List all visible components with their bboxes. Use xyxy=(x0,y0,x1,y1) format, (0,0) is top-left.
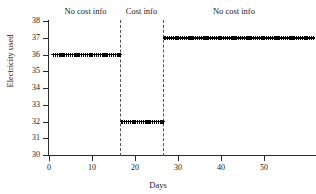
data-point-marker xyxy=(292,36,296,40)
x-axis-title: Days xyxy=(0,180,316,190)
data-point-marker xyxy=(303,36,307,40)
data-point-marker xyxy=(155,120,159,124)
data-point-marker xyxy=(238,36,242,40)
data-point-marker xyxy=(258,36,262,40)
vertical-dashed-line xyxy=(120,20,121,156)
data-point-marker xyxy=(202,36,206,40)
y-tick xyxy=(43,155,48,156)
data-point-marker xyxy=(213,36,217,40)
data-point-marker xyxy=(92,53,96,57)
x-tick-label: 50 xyxy=(252,163,276,172)
data-point-marker xyxy=(234,36,238,40)
data-point-marker xyxy=(249,36,253,40)
data-point-marker xyxy=(182,36,186,40)
data-point-marker xyxy=(62,53,66,57)
data-point-marker xyxy=(146,120,150,124)
data-point-marker xyxy=(195,36,199,40)
data-point-marker xyxy=(296,36,300,40)
data-point-marker xyxy=(232,36,236,40)
y-tick-label: 30 xyxy=(10,151,40,159)
region-annotation-label: No cost info xyxy=(65,6,107,16)
data-point-marker xyxy=(273,36,277,40)
data-point-marker xyxy=(148,120,152,124)
data-point-marker xyxy=(129,120,133,124)
y-tick xyxy=(43,88,48,89)
data-point-marker xyxy=(309,36,313,40)
data-point-marker xyxy=(281,36,285,40)
y-tick xyxy=(43,38,48,39)
data-point-marker xyxy=(114,53,118,57)
y-tick xyxy=(43,55,48,56)
data-point-marker xyxy=(88,53,92,57)
x-tick xyxy=(264,156,265,161)
data-point-marker xyxy=(266,36,270,40)
y-tick xyxy=(43,138,48,139)
data-point-marker xyxy=(172,36,176,40)
data-point-marker xyxy=(122,120,126,124)
data-point-marker xyxy=(193,36,197,40)
data-point-marker xyxy=(107,53,111,57)
data-point-marker xyxy=(256,36,260,40)
data-point-marker xyxy=(253,36,257,40)
data-point-marker xyxy=(247,36,251,40)
data-point-marker xyxy=(180,36,184,40)
data-point-marker xyxy=(77,53,81,57)
data-point-marker xyxy=(64,53,68,57)
data-point-marker xyxy=(142,120,146,124)
y-axis-line xyxy=(48,20,49,156)
data-point-marker xyxy=(228,36,232,40)
data-point-marker xyxy=(58,53,62,57)
data-point-marker xyxy=(200,36,204,40)
data-point-marker xyxy=(206,36,210,40)
data-point-marker xyxy=(275,36,279,40)
data-point-marker xyxy=(144,120,148,124)
electricity-usage-chart: 303132333435363738 01020304050 No cost i… xyxy=(0,0,316,194)
data-point-marker xyxy=(311,36,315,40)
data-point-marker xyxy=(96,53,100,57)
data-point-marker xyxy=(215,36,219,40)
data-point-marker xyxy=(178,36,182,40)
data-point-marker xyxy=(236,36,240,40)
data-point-marker xyxy=(290,36,294,40)
x-axis-line xyxy=(48,155,316,156)
data-point-marker xyxy=(284,36,288,40)
data-point-marker xyxy=(204,36,208,40)
y-tick xyxy=(43,122,48,123)
data-point-marker xyxy=(139,120,143,124)
data-point-marker xyxy=(60,53,64,57)
data-point-marker xyxy=(174,36,178,40)
data-point-marker xyxy=(81,53,85,57)
data-point-marker xyxy=(53,53,57,57)
y-tick-label: 31 xyxy=(10,134,40,142)
vertical-dashed-line xyxy=(163,20,164,156)
data-point-marker xyxy=(51,53,55,57)
data-point-marker xyxy=(286,36,290,40)
data-point-marker xyxy=(307,36,311,40)
data-point-marker xyxy=(103,53,107,57)
data-point-marker xyxy=(150,120,154,124)
data-point-marker xyxy=(245,36,249,40)
x-tick-label: 10 xyxy=(80,163,104,172)
data-point-marker xyxy=(262,36,266,40)
x-tick-label: 0 xyxy=(37,163,61,172)
data-point-marker xyxy=(56,53,60,57)
y-tick xyxy=(43,71,48,72)
data-point-marker xyxy=(133,120,137,124)
data-point-marker xyxy=(79,53,83,57)
data-point-marker xyxy=(277,36,281,40)
data-point-marker xyxy=(90,53,94,57)
data-point-marker xyxy=(230,36,234,40)
data-point-marker xyxy=(264,36,268,40)
data-point-marker xyxy=(137,120,141,124)
data-point-marker xyxy=(75,53,79,57)
y-tick xyxy=(43,105,48,106)
data-point-marker xyxy=(217,36,221,40)
data-point-marker xyxy=(94,53,98,57)
data-point-marker xyxy=(210,36,214,40)
data-point-marker xyxy=(260,36,264,40)
x-tick-label: 40 xyxy=(209,163,233,172)
data-point-marker xyxy=(99,53,103,57)
data-point-marker xyxy=(279,36,283,40)
data-point-marker xyxy=(268,36,272,40)
data-point-marker xyxy=(251,36,255,40)
